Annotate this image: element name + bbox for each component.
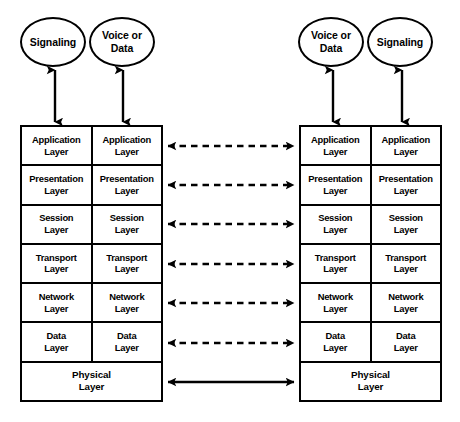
layer-row-physical: Physical Layer [22,363,161,400]
layer-label: Network Layer [108,291,145,315]
right-stack-physical: Physical Layer [301,363,440,400]
osi-stack-diagram: Signaling Voice or Data Voice or Data Si… [0,0,460,422]
layer-row-session: Session Layer Session Layer [301,206,440,245]
left-stack-application-signaling: Application Layer [22,127,93,164]
right-stack-transport-voice-data: Transport Layer [301,245,372,282]
layer-row-data: Data Layer Data Layer [301,323,440,362]
endpoint-left-signaling: Signaling [20,17,86,67]
endpoint-label: Signaling [26,36,80,49]
layer-label: Data Layer [393,330,419,354]
left-stack-data-voice-data: Data Layer [93,323,162,360]
layer-row-session: Session Layer Session Layer [22,206,161,245]
layer-label: Application Layer [31,134,81,158]
left-stack-network-voice-data: Network Layer [93,284,162,321]
left-protocol-stack: Application Layer Application Layer Pres… [20,125,163,402]
layer-row-presentation: Presentation Layer Presentation Layer [22,166,161,205]
endpoint-label: Voice or Data [300,29,362,55]
right-stack-presentation-signaling: Presentation Layer [372,166,441,203]
layer-row-application: Application Layer Application Layer [301,127,440,166]
layer-label: Presentation Layer [28,173,84,197]
left-stack-data-signaling: Data Layer [22,323,93,360]
layer-row-network: Network Layer Network Layer [22,284,161,323]
right-stack-application-voice-data: Application Layer [301,127,372,164]
left-stack-application-voice-data: Application Layer [93,127,162,164]
layer-label: Session Layer [317,212,353,236]
left-stack-session-voice-data: Session Layer [93,206,162,243]
left-stack-physical: Physical Layer [22,363,161,400]
layer-label: Transport Layer [35,252,78,276]
left-stack-transport-voice-data: Transport Layer [93,245,162,282]
layer-row-transport: Transport Layer Transport Layer [301,245,440,284]
layer-label: Presentation Layer [378,173,434,197]
layer-label: Presentation Layer [307,173,363,197]
right-stack-session-signaling: Session Layer [372,206,441,243]
layer-row-presentation: Presentation Layer Presentation Layer [301,166,440,205]
layer-row-transport: Transport Layer Transport Layer [22,245,161,284]
layer-label: Data Layer [43,330,69,354]
layer-label: Session Layer [388,212,424,236]
endpoint-right-voice-data: Voice or Data [298,17,364,67]
layer-label: Physical Layer [350,369,391,394]
left-stack-transport-signaling: Transport Layer [22,245,93,282]
layer-label: Presentation Layer [99,173,155,197]
left-stack-presentation-signaling: Presentation Layer [22,166,93,203]
left-stack-session-signaling: Session Layer [22,206,93,243]
left-stack-presentation-voice-data: Presentation Layer [93,166,162,203]
layer-label: Session Layer [109,212,145,236]
endpoint-left-voice-data: Voice or Data [89,17,155,67]
layer-row-network: Network Layer Network Layer [301,284,440,323]
right-stack-network-voice-data: Network Layer [301,284,372,321]
right-protocol-stack: Application Layer Application Layer Pres… [299,125,442,402]
layer-row-data: Data Layer Data Layer [22,323,161,362]
right-stack-session-voice-data: Session Layer [301,206,372,243]
layer-label: Data Layer [114,330,140,354]
right-stack-application-signaling: Application Layer [372,127,441,164]
right-stack-data-signaling: Data Layer [372,323,441,360]
layer-label: Network Layer [387,291,424,315]
layer-label: Network Layer [317,291,354,315]
endpoint-label: Signaling [373,36,427,49]
layer-label: Transport Layer [384,252,427,276]
layer-row-physical: Physical Layer [301,363,440,400]
layer-row-application: Application Layer Application Layer [22,127,161,166]
right-stack-transport-signaling: Transport Layer [372,245,441,282]
layer-label: Transport Layer [105,252,148,276]
layer-label: Application Layer [381,134,431,158]
layer-label: Data Layer [322,330,348,354]
right-stack-data-voice-data: Data Layer [301,323,372,360]
layer-label: Session Layer [38,212,74,236]
left-stack-network-signaling: Network Layer [22,284,93,321]
layer-label: Physical Layer [71,369,112,394]
layer-label: Application Layer [310,134,360,158]
layer-label: Application Layer [102,134,152,158]
layer-label: Transport Layer [314,252,357,276]
endpoint-right-signaling: Signaling [367,17,433,67]
layer-label: Network Layer [38,291,75,315]
right-stack-presentation-voice-data: Presentation Layer [301,166,372,203]
right-stack-network-signaling: Network Layer [372,284,441,321]
endpoint-label: Voice or Data [91,29,153,55]
